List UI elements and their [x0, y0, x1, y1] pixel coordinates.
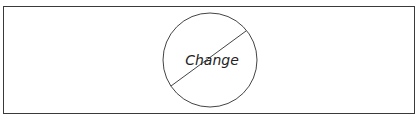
change-label: Change [185, 52, 239, 68]
change-symbol: Change [0, 0, 419, 122]
